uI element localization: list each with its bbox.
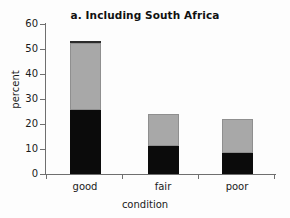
x-label-good: good [50,181,120,192]
y-tick-10 [40,149,45,150]
bar-good-segment-lower [70,110,101,174]
bar-poor-segment-upper [222,119,253,153]
x-axis-line [45,174,276,175]
bar-good[interactable] [70,41,101,174]
y-tick-label-10: 10 [14,144,38,154]
y-tick-60 [40,24,45,25]
x-label-fair: fair [128,181,198,192]
plot-area [46,24,275,174]
x-tick-2 [198,174,199,179]
x-label-poor: poor [202,181,272,192]
y-tick-50 [40,49,45,50]
bar-fair-segment-lower [148,146,179,174]
y-tick-label-0: 0 [14,169,38,179]
y-tick-label-50: 50 [14,44,38,54]
y-tick-30 [40,99,45,100]
chart-title: a. Including South Africa [0,9,290,21]
y-tick-40 [40,74,45,75]
x-tick-left [46,174,47,179]
bar-poor[interactable] [222,119,253,174]
bar-good-segment-top-cap [70,41,101,43]
y-tick-label-20: 20 [14,119,38,129]
y-tick-20 [40,124,45,125]
y-axis-title: percent [10,60,21,120]
y-tick-label-60: 60 [14,19,38,29]
bar-good-segment-upper [70,43,101,111]
y-tick-0 [40,174,45,175]
x-tick-1 [122,174,123,179]
bar-fair[interactable] [148,114,179,174]
x-tick-right [274,174,275,179]
chart-figure: a. Including South Africa 60 50 40 30 20… [0,0,290,218]
bar-fair-segment-upper [148,114,179,146]
bar-poor-segment-lower [222,153,253,174]
x-axis-title: condition [0,199,290,210]
